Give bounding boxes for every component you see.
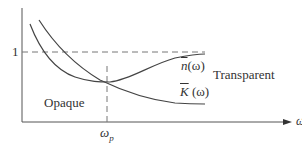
n-curve-label: n(ω): [181, 59, 205, 72]
omega-p-subscript: p: [109, 133, 114, 143]
opaque-region-label: Opaque: [44, 96, 84, 109]
n-curve: [30, 24, 205, 82]
transparent-region-label: Transparent: [213, 68, 275, 81]
omega-p-label: ωp: [100, 126, 114, 143]
n-argument: (ω): [188, 58, 205, 73]
unity-label: 1: [12, 45, 19, 58]
x-axis-arrow-icon: [283, 119, 292, 125]
k-curve-label: K (ω): [180, 85, 209, 98]
omega-axis-label: ω: [296, 115, 302, 127]
k-symbol: K: [180, 84, 189, 99]
omega-p-symbol: ω: [100, 125, 109, 140]
k-argument: (ω): [192, 84, 209, 99]
